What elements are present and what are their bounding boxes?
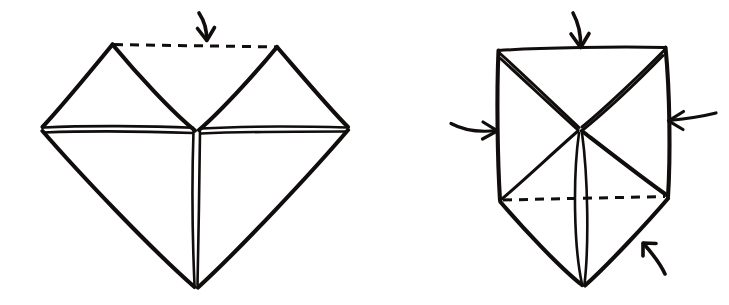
crease-topleft-diagonal-a [500,53,580,128]
left-panel-group [43,13,349,288]
crease-horizontal-lower [44,132,193,133]
origami-figure: Origami folding diagram: two steps [0,0,729,305]
crease-vertical-left [193,131,195,285]
edge-lower-left [501,202,583,285]
origami-diagram-svg [0,0,729,305]
crease-vertical-left-right-panel [575,133,582,284]
edge-left-vertical [497,51,500,201]
right-panel-group [451,13,716,286]
crease-topleft-to-center [113,45,196,131]
push-up-left-arrow-shaft [644,244,666,275]
crease-horizontal-right-upper [201,127,347,129]
crease-center-to-midleft [501,131,579,200]
crease-center-to-midright [582,131,668,196]
crease-vertical-right [198,132,201,285]
edge-right-upper [277,47,348,127]
crease-vertical-right-right-panel [582,133,587,284]
edge-right-lower [198,130,348,288]
crease-horizontal-right-lower [201,132,347,134]
crease-topright-to-center [199,47,277,130]
edge-left-upper [43,45,113,128]
dashed-valley-fold-waist [503,197,665,201]
edge-left-lower [43,131,195,287]
crease-topright-diagonal-b [582,56,664,132]
crease-topleft-diagonal-b [501,59,579,131]
dashed-valley-fold-top [114,45,276,48]
crease-horizontal-upper [44,126,193,128]
crease-topright-diagonal-a [582,50,665,127]
